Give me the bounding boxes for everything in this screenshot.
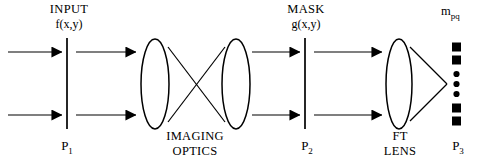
beam-group-post-imaging [252,52,300,115]
imaging-optics-label-group: IMAGING OPTICS [140,129,250,159]
output-symbol-sub: pq [451,11,460,21]
detector-square-1 [452,43,461,52]
output-symbol-label: mpq [441,5,479,21]
ft-lens-line-2: LENS [364,144,436,159]
plane-label-p3-sub: 3 [459,146,464,156]
imaging-optics-line-2: OPTICS [140,144,250,159]
mask-title: MASK [265,2,347,17]
ray-converge-lower [410,84,447,121]
detector-dot-1 [453,71,459,77]
imaging-crossing-rays [168,47,225,122]
imaging-optics-line-1: IMAGING [140,129,250,144]
ft-lens [386,39,412,129]
optical-system-diagram: INPUT f(x,y) P1 IMAGING OPTICS MASK g(x,… [0,0,480,168]
plane-label-p1-sub: 1 [68,146,73,156]
input-label-group: INPUT f(x,y) [28,2,110,32]
detector-dot-2 [453,81,459,87]
beam-group-post-input [76,52,136,115]
plane-label-p2: P2 [290,139,324,156]
ft-converging-rays [410,47,447,121]
detector-square-2 [452,56,461,65]
plane-label-p2-sub: 2 [308,146,313,156]
detector-square-4 [452,117,461,126]
mask-function: g(x,y) [265,17,347,32]
output-symbol-text: m [441,4,451,18]
imaging-lens-1 [141,39,169,129]
plane-label-p3: P3 [441,139,475,156]
input-title: INPUT [28,2,110,17]
output-detector-array-p3 [452,43,461,126]
detector-dot-3 [453,91,459,97]
beam-group-input [8,52,62,115]
imaging-lens-2 [222,39,250,129]
input-function: f(x,y) [28,17,110,32]
detector-square-3 [452,104,461,113]
plane-label-p1: P1 [50,139,84,156]
ft-lens-line-1: FT [364,129,436,144]
ft-lens-label-group: FT LENS [364,129,436,159]
beam-group-post-mask [314,52,382,115]
mask-label-group: MASK g(x,y) [265,2,347,32]
ray-converge-upper [410,47,447,84]
